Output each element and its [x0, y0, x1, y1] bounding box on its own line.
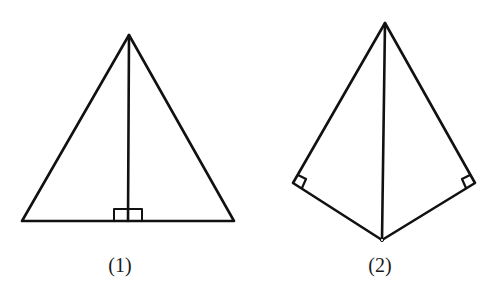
- right-angle-mark-left: [114, 209, 128, 221]
- figure-2: [293, 23, 475, 240]
- figure-2-label: (2): [368, 254, 391, 277]
- right-angle-mark-right: [128, 209, 142, 221]
- altitude-line: [128, 35, 129, 221]
- diagram-canvas: (1) (2): [0, 0, 504, 294]
- figure-1-label: (1): [108, 254, 131, 277]
- diagonal-line: [382, 23, 385, 240]
- bottom-vertex-dot: [380, 238, 383, 241]
- figure-1: [22, 35, 234, 221]
